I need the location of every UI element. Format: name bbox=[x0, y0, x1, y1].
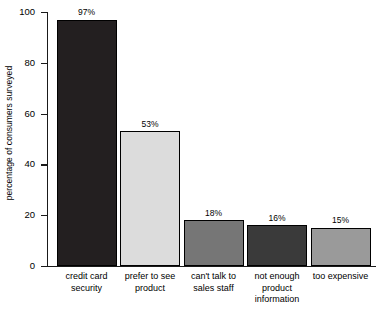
y-axis-tick-label: 0 bbox=[0, 261, 35, 271]
bar-value-label: 15% bbox=[332, 216, 349, 225]
bar-group: 16% bbox=[247, 12, 307, 266]
bar-chart: percentage of consumers surveyed 0204060… bbox=[0, 0, 384, 327]
y-axis-ticks: 020406080100 bbox=[0, 0, 47, 327]
bar[interactable] bbox=[184, 220, 244, 266]
bar-group: 18% bbox=[184, 12, 244, 266]
y-axis-tick-label: 20 bbox=[0, 210, 35, 220]
plot-area: 97%53%18%16%15% bbox=[48, 12, 376, 266]
y-axis-tick-label: 100 bbox=[0, 7, 35, 17]
x-axis-label-line: information bbox=[239, 294, 315, 306]
y-axis-tick-label: 40 bbox=[0, 159, 35, 169]
y-axis-tick-label: 80 bbox=[0, 58, 35, 68]
bar-value-label: 16% bbox=[268, 214, 285, 223]
x-axis-label-line: product bbox=[239, 283, 315, 295]
bar-value-label: 97% bbox=[78, 8, 95, 17]
x-axis-label: too expensive bbox=[303, 271, 379, 283]
bar[interactable] bbox=[247, 225, 307, 266]
x-axis-labels: credit cardsecurityprefer to seeproductc… bbox=[48, 271, 376, 327]
bar[interactable] bbox=[120, 131, 180, 266]
bar[interactable] bbox=[57, 20, 117, 266]
y-axis-tick-label: 60 bbox=[0, 109, 35, 119]
bar-group: 97% bbox=[57, 12, 117, 266]
x-axis-label-line: too expensive bbox=[303, 271, 379, 283]
x-axis-line bbox=[47, 266, 376, 267]
bar-value-label: 53% bbox=[141, 120, 158, 129]
bar-group: 15% bbox=[311, 12, 371, 266]
bar-group: 53% bbox=[120, 12, 180, 266]
bar[interactable] bbox=[311, 228, 371, 266]
bar-value-label: 18% bbox=[205, 209, 222, 218]
